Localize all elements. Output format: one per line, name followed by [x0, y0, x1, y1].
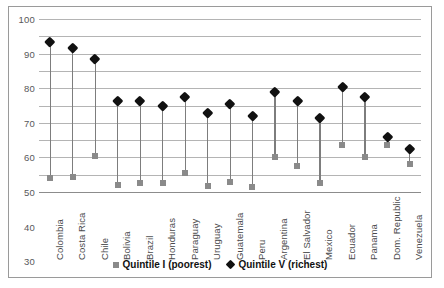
- x-axis-label-honduras: Honduras: [166, 218, 177, 260]
- quintile-v-marker: [202, 107, 213, 118]
- quintile-v-marker: [360, 92, 371, 103]
- connector-line: [319, 118, 320, 184]
- connector-line: [95, 59, 96, 156]
- y-axis-tick-90: 90: [24, 48, 35, 59]
- quintile-i-marker: [339, 142, 345, 148]
- connector-line: [297, 100, 298, 166]
- y-axis-tick-80: 80: [24, 83, 35, 94]
- gridline-0: 0: [39, 192, 421, 193]
- connector-line: [252, 116, 253, 187]
- x-axis-label-colombia: Colombia: [54, 219, 65, 260]
- x-axis-label-brazil: Brazil: [144, 236, 155, 260]
- connector-line: [50, 41, 51, 178]
- x-axis-label-paraguay: Paraguay: [189, 219, 200, 260]
- connector-line: [230, 104, 231, 183]
- connector-line: [364, 97, 365, 158]
- connector-line: [207, 112, 208, 186]
- legend-item-quintile-i: Quintile I (poorest): [113, 259, 212, 270]
- x-axis-labels: ColombiaCosta RicaChileBoliviaBrazilHond…: [39, 196, 421, 262]
- plot-area: 1009080706050403020100: [39, 19, 421, 192]
- quintile-i-marker: [272, 154, 278, 160]
- y-axis-tick-70: 70: [24, 117, 35, 128]
- connector-line: [72, 48, 73, 178]
- x-axis-label-bolivia: Bolivia: [121, 231, 132, 260]
- quintile-v-marker: [180, 92, 191, 103]
- quintile-i-marker: [137, 180, 143, 186]
- gridline-90: 90: [39, 36, 421, 37]
- quintile-v-marker: [112, 95, 123, 106]
- connector-line: [140, 100, 141, 183]
- connector-line: [185, 97, 186, 173]
- quintile-v-marker: [247, 111, 258, 122]
- legend-label: Quintile V (richest): [238, 259, 327, 270]
- quintile-v-marker: [292, 95, 303, 106]
- quintile-v-marker: [315, 112, 326, 123]
- y-axis-tick-60: 60: [24, 152, 35, 163]
- connector-line: [274, 92, 275, 158]
- quintile-i-marker: [47, 175, 53, 181]
- quintile-v-marker: [135, 95, 146, 106]
- quintile-i-marker: [115, 182, 121, 188]
- quintile-v-marker: [337, 81, 348, 92]
- x-axis-label-chile: Chile: [99, 238, 110, 260]
- quintile-i-marker: [160, 180, 166, 186]
- quintile-i-marker: [294, 163, 300, 169]
- quintile-i-marker: [317, 180, 323, 186]
- quintile-i-marker: [92, 153, 98, 159]
- y-axis-tick-50: 50: [24, 187, 35, 198]
- connector-line: [117, 100, 118, 185]
- x-axis-label-ecuador: Ecuador: [346, 224, 357, 260]
- quintile-v-marker: [45, 36, 56, 47]
- quintile-i-marker: [70, 174, 76, 180]
- quintile-v-marker: [157, 100, 168, 111]
- y-axis-tick-100: 100: [19, 14, 35, 25]
- quintile-i-marker: [249, 184, 255, 190]
- x-axis-label-guatemala: Guatemala: [234, 213, 245, 260]
- quintile-v-marker: [404, 143, 415, 154]
- quintile-i-marker: [384, 142, 390, 148]
- x-axis-label-costa-rica: Costa Rica: [76, 213, 87, 260]
- quintile-v-marker: [90, 53, 101, 64]
- square-marker-icon: [113, 262, 119, 268]
- x-axis-label-venezuela: Venezuela: [413, 215, 424, 260]
- diamond-marker-icon: [226, 260, 236, 270]
- gridline-70: 70: [39, 71, 421, 72]
- legend-item-quintile-v: Quintile V (richest): [227, 259, 327, 270]
- gridline-60: 60: [39, 88, 421, 89]
- quintile-i-marker: [407, 161, 413, 167]
- x-axis-label-dom-republic: Dom. Republic: [391, 196, 402, 260]
- gridline-100: 100: [39, 19, 421, 20]
- x-axis-label-panama: Panama: [368, 224, 379, 260]
- x-axis-label-uruguay: Uruguay: [211, 223, 222, 260]
- quintile-i-marker: [362, 154, 368, 160]
- x-axis-label-argentina: Argentina: [278, 218, 289, 260]
- chart-frame: 1009080706050403020100 ColombiaCosta Ric…: [8, 6, 432, 278]
- legend-label: Quintile I (poorest): [123, 259, 212, 270]
- connector-line: [342, 86, 343, 145]
- chart-legend: Quintile I (poorest)Quintile V (richest): [9, 259, 431, 270]
- quintile-i-marker: [227, 179, 233, 185]
- x-axis-label-el-salvador: El Salvador: [301, 210, 312, 260]
- quintile-v-marker: [225, 98, 236, 109]
- quintile-i-marker: [182, 170, 188, 176]
- x-axis-label-peru: Peru: [256, 240, 267, 260]
- y-axis-tick-40: 40: [24, 221, 35, 232]
- quintile-i-marker: [205, 183, 211, 189]
- x-axis-label-mexico: Mexico: [323, 229, 334, 260]
- quintile-v-marker: [67, 42, 78, 53]
- connector-line: [162, 106, 163, 184]
